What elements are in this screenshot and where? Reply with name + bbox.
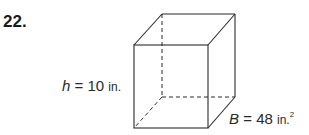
base-area-label: B = 48 in.2 — [229, 110, 294, 127]
top-left-connector — [134, 14, 162, 45]
height-variable: h — [62, 77, 70, 94]
base-equals: = — [243, 110, 252, 127]
base-value: 48 — [256, 110, 273, 127]
height-unit: in. — [108, 80, 121, 94]
height-equals: = — [75, 77, 84, 94]
hidden-bottom-left-connector — [134, 97, 162, 128]
height-label: h = 10 in. — [62, 77, 121, 94]
front-face — [134, 45, 208, 128]
top-right-connector — [208, 14, 235, 45]
base-variable: B — [229, 110, 239, 127]
height-value: 10 — [87, 77, 104, 94]
base-exponent: 2 — [290, 110, 294, 119]
base-unit: in. — [277, 113, 290, 127]
